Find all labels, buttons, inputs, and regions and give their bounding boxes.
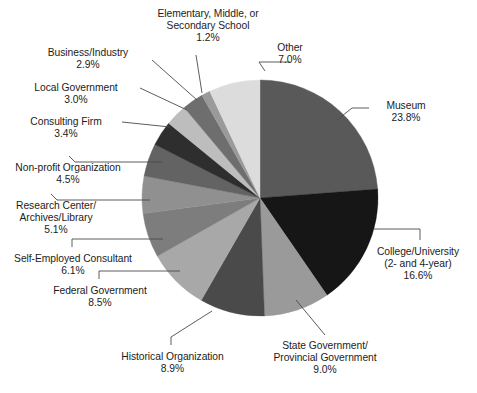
pie-label-historical-pct: 8.9% xyxy=(104,363,241,375)
pie-label-local-government-line1: Local Government xyxy=(14,82,138,94)
pie-label-nonprofit-pct: 4.5% xyxy=(3,174,133,186)
pie-label-state-government-line2: Provincial Government xyxy=(255,352,395,364)
pie-label-consulting-line1: Consulting Firm xyxy=(12,116,120,128)
pie-label-state-government-pct: 9.0% xyxy=(255,364,395,376)
leader-line-college xyxy=(374,229,420,240)
pie-label-nonprofit: Non-profit Organization 4.5% xyxy=(3,162,133,186)
pie-label-elementary: Elementary, Middle, or Secondary School … xyxy=(118,8,298,45)
pie-label-nonprofit-line1: Non-profit Organization xyxy=(3,162,133,174)
pie-label-consulting-pct: 3.4% xyxy=(12,128,120,140)
pie-label-other-line1: Other xyxy=(255,42,325,54)
leader-line-consulting xyxy=(122,122,170,127)
pie-label-elementary-line2: Secondary School xyxy=(118,20,298,32)
pie-label-historical: Historical Organization 8.9% xyxy=(104,351,241,375)
leader-line-self-employed xyxy=(72,239,163,247)
pie-label-self-employed-line1: Self-Employed Consultant xyxy=(7,253,139,265)
pie-label-other: Other 7.0% xyxy=(255,42,325,66)
pie-label-business-pct: 2.9% xyxy=(28,59,148,71)
pie-label-museum-pct: 23.8% xyxy=(369,112,443,124)
pie-label-business-line1: Business/Industry xyxy=(28,47,148,59)
pie-label-other-pct: 7.0% xyxy=(255,54,325,66)
pie-label-elementary-line1: Elementary, Middle, or xyxy=(118,8,298,20)
leader-line-local-government xyxy=(140,88,187,110)
pie-label-local-government-pct: 3.0% xyxy=(14,94,138,106)
pie-label-research-center-line2: Archives/Library xyxy=(2,212,110,224)
leader-line-business xyxy=(152,60,197,100)
leader-line-state-government xyxy=(296,300,325,335)
pie-label-research-center: Research Center/ Archives/Library 5.1% xyxy=(2,200,110,237)
pie-label-consulting: Consulting Firm 3.4% xyxy=(12,116,120,140)
pie-label-college-line1: College/University xyxy=(362,246,474,258)
pie-label-state-government: State Government/ Provincial Government … xyxy=(255,340,395,377)
leader-line-elementary xyxy=(196,55,202,93)
pie-label-research-center-pct: 5.1% xyxy=(2,224,110,236)
pie-label-historical-line1: Historical Organization xyxy=(104,351,241,363)
pie-label-college-line2: (2- and 4-year) xyxy=(362,258,474,270)
pie-label-local-government: Local Government 3.0% xyxy=(14,82,138,106)
pie-label-research-center-line1: Research Center/ xyxy=(2,200,110,212)
pie-label-college: College/University (2- and 4-year) 16.6% xyxy=(362,246,474,283)
pie-label-business: Business/Industry 2.9% xyxy=(28,47,148,71)
pie-label-museum: Museum 23.8% xyxy=(369,100,443,124)
pie-label-self-employed: Self-Employed Consultant 6.1% xyxy=(7,253,139,277)
pie-chart-figure: Elementary, Middle, or Secondary School … xyxy=(0,0,477,393)
pie-label-federal-pct: 8.5% xyxy=(39,297,161,309)
pie-label-self-employed-pct: 6.1% xyxy=(7,265,139,277)
pie-slice[interactable] xyxy=(260,80,378,198)
pie-label-college-pct: 16.6% xyxy=(362,270,474,282)
pie-label-federal-line1: Federal Government xyxy=(39,285,161,297)
leader-line-historical xyxy=(171,311,212,345)
pie-label-museum-line1: Museum xyxy=(369,100,443,112)
pie-label-federal: Federal Government 8.5% xyxy=(39,285,161,309)
pie-label-state-government-line1: State Government/ xyxy=(255,340,395,352)
